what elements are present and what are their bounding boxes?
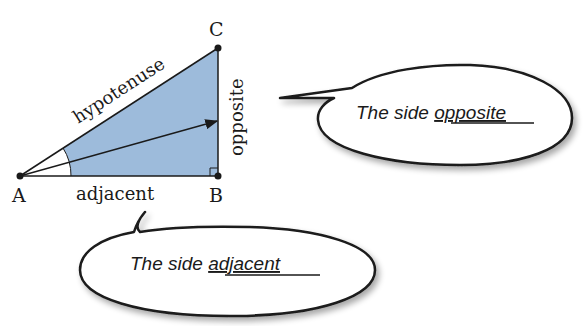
vertex-c-label: C [209, 18, 224, 40]
vertex-a-dot [17, 173, 24, 180]
triangle [17, 45, 222, 180]
vertex-a-label: A [11, 184, 26, 206]
callout-adjacent-text: The side adjacent [130, 253, 281, 274]
opposite-label: opposite [226, 78, 247, 156]
callout-opposite-text: The side opposite [356, 102, 506, 123]
vertex-c-dot [215, 45, 222, 52]
vertex-b-label: B [209, 184, 223, 206]
adjacent-label: adjacent [76, 183, 155, 204]
vertex-b-dot [215, 173, 222, 180]
right-triangle-diagram: A B C adjacent opposite hypotenuse The s… [0, 0, 584, 326]
